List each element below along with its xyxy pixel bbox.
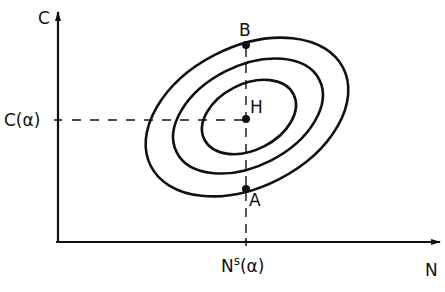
point-b-label: B xyxy=(239,20,251,40)
point-h-marker xyxy=(242,115,250,123)
x-tick-label-tail: (α) xyxy=(240,256,264,276)
y-tick-label: C(α) xyxy=(4,110,40,130)
x-tick-label: Ns(α) xyxy=(221,254,264,276)
x-tick-label-main: N xyxy=(221,256,234,276)
x-axis-label: N xyxy=(425,260,438,280)
y-axis-label: C xyxy=(38,8,50,28)
point-a-label: A xyxy=(249,190,261,210)
contour-diagram: C N C(α) Ns(α) B H A xyxy=(0,0,445,292)
point-h-label: H xyxy=(250,97,263,117)
point-b-marker xyxy=(242,41,250,49)
